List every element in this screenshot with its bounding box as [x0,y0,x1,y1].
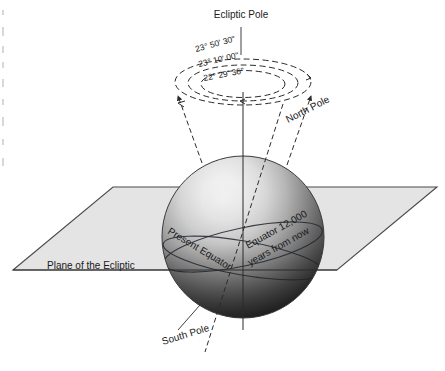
precession-diagram: Ecliptic Pole 23° 50' 30" 23° 10' 00" 22… [0,0,445,371]
precession-cone [178,96,311,165]
obliquity-min-label: 22° 29' 36" [202,65,244,83]
north-pole-label: North Pole [284,93,331,124]
plane-of-ecliptic-label: Plane of the Ecliptic [47,260,135,271]
scan-edge-artifacts [2,10,4,166]
ecliptic-pole-label: Ecliptic Pole [214,9,269,20]
south-pole-label: South Pole [160,322,210,347]
cone-line-left [178,96,202,163]
obliquity-mean-label: 23° 10' 00" [197,50,239,69]
